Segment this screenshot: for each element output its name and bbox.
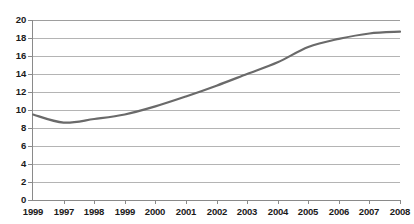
line-chart: 20181614121086420 1999199719981999200020…	[0, 0, 414, 224]
series-line-layer	[0, 0, 414, 224]
series-line-1	[33, 32, 400, 123]
